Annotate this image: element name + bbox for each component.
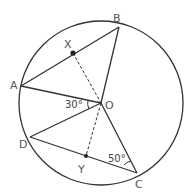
label-x: X: [64, 38, 72, 51]
label-y: Y: [77, 163, 85, 176]
radius-oa: [21, 86, 101, 103]
angle-aod-label: 30°: [65, 99, 83, 110]
dashed-oy: [86, 103, 101, 156]
dashed-xo: [73, 53, 101, 103]
point-y-dot: [84, 154, 88, 158]
circle-diagram: B A X O D Y C 30° 50°: [0, 0, 190, 195]
radius-ob: [101, 27, 119, 103]
label-c: C: [135, 178, 143, 191]
label-a: A: [10, 79, 18, 92]
label-o: O: [105, 99, 114, 112]
label-d: D: [19, 138, 27, 151]
angle-aod-arc: [88, 100, 89, 109]
angle-dco-label: 50°: [108, 153, 126, 164]
point-x-dot: [70, 50, 75, 55]
chord-ab: [21, 27, 119, 86]
label-b: B: [113, 12, 121, 25]
